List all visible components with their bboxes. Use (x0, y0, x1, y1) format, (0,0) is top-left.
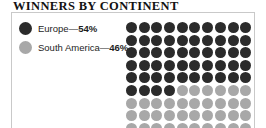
dot-europe (126, 22, 137, 33)
dot-europe (215, 47, 226, 58)
dot-europe (177, 47, 188, 58)
dot-row (126, 35, 254, 48)
dot-row (126, 72, 254, 85)
dot-row (126, 85, 254, 98)
dot-europe (240, 72, 251, 83)
dot-europe (151, 85, 162, 96)
chart-legend: Europe—54% South America—46% (19, 19, 139, 57)
dot-south-america (164, 110, 175, 121)
dot-south-america (202, 98, 213, 109)
dot-europe (202, 22, 213, 33)
south-america-swatch-icon (19, 41, 32, 54)
dot-europe (240, 47, 251, 58)
dot-row (126, 22, 254, 35)
dot-europe (126, 72, 137, 83)
dot-south-america (177, 123, 188, 128)
dot-row (126, 123, 254, 128)
dot-europe (151, 35, 162, 46)
chart-panel: Europe—54% South America—46% (11, 12, 255, 128)
dot-europe (126, 85, 137, 96)
dot-row (126, 98, 254, 111)
dot-europe (215, 22, 226, 33)
dot-europe (139, 47, 150, 58)
legend-item-europe[interactable]: Europe—54% (19, 19, 139, 38)
dot-south-america (189, 85, 200, 96)
dot-europe (151, 22, 162, 33)
dot-south-america (151, 123, 162, 128)
dot-south-america (240, 110, 251, 121)
dot-matrix-chart (126, 22, 254, 128)
dot-europe (151, 72, 162, 83)
dot-south-america (228, 123, 239, 128)
dot-europe (202, 35, 213, 46)
dot-south-america (202, 110, 213, 121)
dot-europe (139, 85, 150, 96)
dot-europe (164, 22, 175, 33)
dot-europe (215, 72, 226, 83)
dot-europe (177, 22, 188, 33)
dot-south-america (139, 98, 150, 109)
dot-europe (215, 35, 226, 46)
legend-category-name: South America— (38, 42, 109, 53)
dot-south-america (228, 110, 239, 121)
dot-europe (126, 35, 137, 46)
dot-europe (139, 60, 150, 71)
legend-item-label: Europe—54% (38, 23, 97, 34)
dot-europe (139, 22, 150, 33)
dot-south-america (215, 85, 226, 96)
dot-south-america (164, 123, 175, 128)
dot-europe (164, 72, 175, 83)
legend-item-label: South America—46% (38, 42, 128, 53)
dot-south-america (139, 110, 150, 121)
dot-south-america (126, 123, 137, 128)
legend-item-south-america[interactable]: South America—46% (19, 38, 139, 57)
dot-europe (215, 60, 226, 71)
dot-europe (202, 72, 213, 83)
dot-south-america (177, 98, 188, 109)
dot-south-america (240, 123, 251, 128)
dot-row (126, 47, 254, 60)
legend-category-name: Europe— (38, 23, 78, 34)
dot-south-america (202, 123, 213, 128)
dot-europe (139, 72, 150, 83)
dot-europe (228, 35, 239, 46)
dot-south-america (202, 85, 213, 96)
dot-row (126, 110, 254, 123)
dot-europe (126, 60, 137, 71)
dot-south-america (228, 98, 239, 109)
dot-europe (164, 60, 175, 71)
dot-europe (189, 35, 200, 46)
dot-europe (151, 47, 162, 58)
dot-south-america (151, 98, 162, 109)
dot-europe (189, 72, 200, 83)
dot-south-america (240, 85, 251, 96)
dot-europe (240, 35, 251, 46)
dot-south-america (164, 98, 175, 109)
dot-south-america (228, 85, 239, 96)
dot-south-america (189, 110, 200, 121)
europe-swatch-icon (19, 22, 32, 35)
dot-south-america (126, 110, 137, 121)
dot-south-america (151, 110, 162, 121)
dot-europe (177, 35, 188, 46)
dot-europe (240, 60, 251, 71)
dot-europe (177, 60, 188, 71)
legend-percent-value: 54% (78, 23, 97, 34)
dot-europe (240, 22, 251, 33)
dot-south-america (215, 98, 226, 109)
dot-south-america (240, 98, 251, 109)
dot-europe (202, 47, 213, 58)
dot-europe (189, 47, 200, 58)
dot-europe (164, 47, 175, 58)
dot-europe (177, 72, 188, 83)
dot-south-america (177, 85, 188, 96)
dot-europe (139, 35, 150, 46)
dot-south-america (215, 123, 226, 128)
dot-row (126, 60, 254, 73)
dot-europe (126, 47, 137, 58)
dot-south-america (139, 123, 150, 128)
dot-south-america (177, 110, 188, 121)
dot-europe (228, 60, 239, 71)
dot-south-america (126, 98, 137, 109)
dot-europe (228, 47, 239, 58)
